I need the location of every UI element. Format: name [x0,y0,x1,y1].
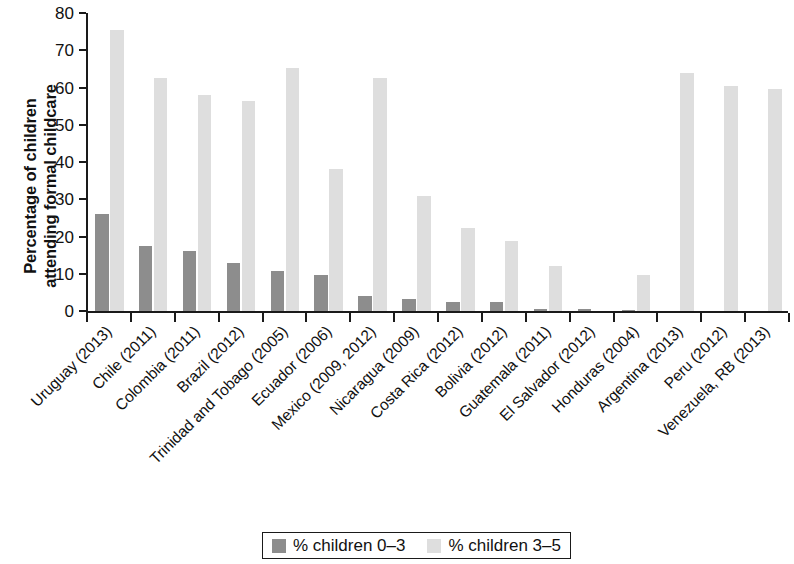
y-tick-mark [79,12,86,14]
x-axis-label: Ecuador (2006) [0,323,335,564]
bar [637,275,651,312]
x-axis-label: Nicaragua (2009) [0,323,423,564]
x-tick-mark [130,313,132,322]
bar-group [262,13,306,311]
bar-group [525,13,569,311]
bar [549,266,563,311]
bar-group [700,13,744,311]
bar [402,299,416,311]
x-axis-label: El Salvador (2012) [161,323,598,564]
legend-item: % children 3–5 [427,537,560,554]
bar [110,30,124,311]
x-tick-mark [525,313,527,322]
bar [417,196,431,311]
x-axis-label: Trinidad and Tobago (2005) [0,323,291,564]
y-tick-label: 30 [14,191,74,208]
bar [534,309,548,311]
x-tick-mark [305,313,307,322]
plot-area: 01020304050607080 [86,13,788,311]
x-axis-label: Guatemala (2011) [117,323,554,564]
bar-group [656,13,700,311]
legend-item: % children 0–3 [272,537,405,554]
bar [227,263,241,311]
bar [242,101,256,311]
bar [724,86,738,311]
x-axis-label: Colombia (2011) [0,323,203,564]
bar-series-container [86,13,788,311]
x-axis-label: Mexico (2009, 2012) [0,323,379,564]
x-tick-mark [569,313,571,322]
bar [461,228,475,311]
y-axis-title: Percentage of children attending formal … [17,21,63,351]
bar [139,246,153,311]
bar-group [393,13,437,311]
y-tick-mark [79,273,86,275]
y-tick-label: 70 [14,42,74,59]
y-tick-label: 10 [14,266,74,283]
y-tick-mark [79,198,86,200]
x-axis-label: Honduras (2004) [205,323,642,564]
x-axis-label: Costa Rica (2012) [30,323,467,564]
y-tick-label: 40 [14,154,74,171]
bar-group [218,13,262,311]
y-tick-label: 80 [14,5,74,22]
bar [271,271,285,311]
y-axis-title-text: Percentage of children attending formal … [20,84,60,288]
x-tick-mark [656,313,658,322]
bar [622,310,636,311]
x-axis-label: Brazil (2012) [0,323,247,564]
bar [490,302,504,311]
x-axis-label: Chile (2011) [0,323,159,564]
legend-label: % children 3–5 [448,537,560,554]
x-tick-mark [481,313,483,322]
legend-label: % children 0–3 [293,537,405,554]
bar-group [437,13,481,311]
y-tick-mark [79,161,86,163]
bar-chart-figure: Percentage of children attending formal … [0,0,794,564]
x-tick-mark [86,313,88,322]
y-tick-mark [79,124,86,126]
x-axis-label: Bolivia (2012) [73,323,510,564]
bar [314,275,328,312]
bar [446,302,460,311]
x-tick-mark [349,313,351,322]
x-axis-label: Venezuela, RB (2013) [337,323,774,564]
x-tick-mark [788,313,790,322]
bar-group [130,13,174,311]
bar-group [86,13,130,311]
y-tick-label: 50 [14,117,74,134]
bar [578,309,592,311]
bar [154,78,168,311]
bar-group [174,13,218,311]
x-tick-mark [613,313,615,322]
x-tick-mark [700,313,702,322]
bar-group [744,13,788,311]
x-tick-mark [174,313,176,322]
bar [358,296,372,311]
bar-group [569,13,613,311]
bar [373,78,387,311]
x-axis-label: Argentina (2013) [249,323,686,564]
x-axis-label: Peru (2012) [293,323,730,564]
chart-legend: % children 0–3% children 3–5 [262,532,571,559]
y-tick-label: 60 [14,80,74,97]
x-tick-mark [262,313,264,322]
y-tick-mark [79,310,86,312]
bar-group [613,13,657,311]
bar [505,241,519,311]
y-tick-label: 20 [14,229,74,246]
bar [680,73,694,311]
bar [95,214,109,311]
legend-swatch [427,539,441,553]
y-tick-mark [79,87,86,89]
bar [183,251,197,311]
bar [286,68,300,311]
bar-group [349,13,393,311]
bar-group [481,13,525,311]
y-tick-mark [79,49,86,51]
bar [768,89,782,311]
legend-swatch [272,539,286,553]
bar [329,169,343,311]
x-tick-mark [218,313,220,322]
x-tick-mark [744,313,746,322]
